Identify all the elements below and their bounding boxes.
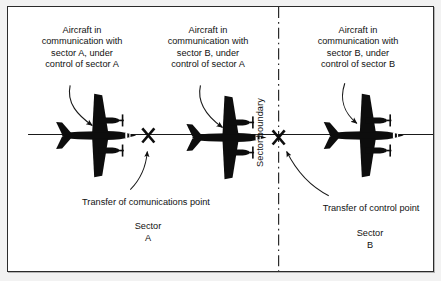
caption-aircraft-2: Aircraft in communication with sector B,… — [142, 25, 274, 71]
marker-arrow-communications — [130, 152, 147, 190]
callout-arrow-aircraft-3 — [342, 83, 356, 123]
label-sector-b: Sector B — [326, 227, 414, 251]
caption-aircraft-3: Aircraft in communication with sector B,… — [289, 25, 427, 71]
aircraft-silhouette-1 — [56, 94, 136, 177]
label-sector-a: Sector A — [104, 220, 192, 244]
caption-aircraft-1: Aircraft in communication with sector A,… — [16, 25, 148, 71]
aircraft-silhouette-3 — [324, 94, 404, 177]
label-sector-boundary: Sector boundary — [255, 98, 265, 167]
callout-arrow-aircraft-2 — [200, 85, 223, 127]
callout-arrow-aircraft-1 — [69, 85, 92, 125]
marker-arrow-control — [287, 152, 329, 196]
figure-container: Aircraft in communication with sector A,… — [0, 0, 441, 281]
label-transfer-of-communications-point: Transfer of comunications point — [56, 197, 236, 209]
figure-frame: Aircraft in communication with sector A,… — [7, 6, 434, 272]
diagram-canvas: Aircraft in communication with sector A,… — [8, 7, 433, 271]
label-transfer-of-control-point: Transfer of control point — [296, 203, 434, 215]
transfer-of-communications-marker — [142, 128, 154, 142]
